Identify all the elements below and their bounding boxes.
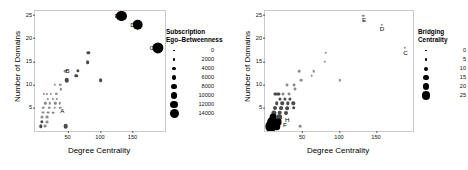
- x-tick: 50: [299, 131, 305, 140]
- data-point: [292, 83, 295, 86]
- legend-right: Bridging Centrality 0510152025: [418, 28, 468, 100]
- legend-value: 5: [434, 57, 468, 63]
- legend-dot-icon: [422, 91, 430, 99]
- legend-entry: 10: [418, 64, 468, 73]
- legend-dot-icon: [170, 101, 178, 109]
- legend-title-left: Subscription Ego–Betweenness: [166, 28, 222, 44]
- legend-title-line1: Subscription: [166, 28, 222, 36]
- data-point: [41, 111, 44, 114]
- legend-dot-icon: [171, 84, 177, 90]
- data-point: [54, 102, 56, 104]
- data-point: [298, 70, 301, 73]
- data-point: [99, 78, 103, 82]
- legend-value: 10000: [182, 93, 216, 99]
- point-label-d: D: [130, 22, 134, 28]
- legend-value: 25: [434, 93, 468, 99]
- data-point: [310, 74, 313, 77]
- legend-size-marker: [166, 50, 182, 52]
- data-point: [60, 88, 62, 90]
- data-point: [49, 93, 51, 95]
- legend-size-marker: [166, 58, 182, 60]
- y-tick: 25: [256, 13, 265, 19]
- data-point: [300, 79, 303, 82]
- legend-entry: 12000: [166, 100, 222, 109]
- legend-dot-icon: [425, 58, 428, 61]
- legend-dot-icon: [172, 67, 175, 70]
- data-point: [63, 124, 68, 129]
- data-point: [283, 97, 286, 100]
- legend-entry: 10000: [166, 91, 222, 100]
- legend-value: 6000: [182, 75, 216, 81]
- legend-size-marker: [166, 101, 182, 109]
- x-axis-label-right: Degree Centrality: [264, 146, 412, 155]
- y-tick: 20: [26, 36, 35, 42]
- data-point: [52, 111, 55, 114]
- data-point: [286, 83, 289, 86]
- data-point: [76, 69, 79, 72]
- data-point: [48, 107, 51, 110]
- data-point: [324, 61, 326, 63]
- legend-size-marker: [166, 109, 182, 118]
- data-point: [59, 84, 61, 86]
- legend-dot-icon: [424, 67, 428, 71]
- x-tick: 50: [64, 131, 70, 140]
- point-label-a: A: [60, 108, 64, 114]
- data-point: [46, 93, 48, 95]
- point-label-d: D: [380, 26, 384, 32]
- legend-value: 14000: [182, 111, 216, 117]
- legend-title-right: Bridging Centrality: [418, 28, 468, 44]
- point-label-b: B: [65, 68, 69, 74]
- legend-title-line2: Ego–Betweenness: [166, 36, 222, 44]
- data-point: [55, 93, 57, 95]
- legend-dot-icon: [172, 75, 177, 80]
- data-point: [74, 74, 78, 78]
- legend-size-marker: [166, 84, 182, 90]
- data-point: [289, 97, 292, 100]
- data-point: [273, 123, 281, 131]
- data-point: [284, 111, 288, 115]
- legend-value: 0: [434, 48, 468, 54]
- legend-size-marker: [166, 75, 182, 80]
- data-point: [40, 120, 43, 123]
- data-point: [286, 102, 289, 105]
- legend-size-marker: [418, 75, 434, 80]
- y-tick: 10: [256, 82, 265, 88]
- legend-dot-icon: [170, 109, 179, 118]
- legend-size-marker: [418, 67, 434, 71]
- data-point: [42, 107, 45, 110]
- y-tick: 20: [256, 36, 265, 42]
- data-point: [44, 125, 47, 128]
- y-tick: 5: [259, 105, 265, 111]
- data-point: [292, 106, 296, 110]
- data-point: [291, 102, 294, 105]
- x-axis-label-left: Degree Centrality: [34, 146, 164, 155]
- legend-size-marker: [418, 50, 434, 52]
- y-tick: 25: [26, 13, 35, 19]
- legend-dot-icon: [423, 75, 428, 80]
- y-tick: 15: [256, 59, 265, 65]
- data-point: [285, 106, 289, 110]
- data-point: [278, 97, 281, 100]
- data-point: [47, 111, 50, 114]
- data-point: [324, 51, 326, 53]
- data-point: [293, 88, 296, 91]
- legend-entry: 2000: [166, 55, 222, 64]
- x-tick: 100: [95, 131, 104, 140]
- data-point: [51, 98, 53, 100]
- legend-left: Subscription Ego–Betweenness 02000400060…: [166, 28, 222, 118]
- legend-size-marker: [166, 67, 182, 70]
- y-axis-label-right: Number of Domains: [243, 19, 252, 115]
- data-point: [43, 93, 45, 95]
- y-tick: 10: [26, 82, 35, 88]
- data-point: [39, 125, 42, 128]
- legend-dot-icon: [423, 83, 430, 90]
- data-point: [53, 84, 55, 86]
- legend-title-line2: Centrality: [418, 36, 468, 44]
- data-point: [298, 125, 301, 128]
- data-point: [86, 60, 90, 64]
- data-point: [49, 102, 51, 104]
- data-point: [288, 93, 291, 96]
- legend-value: 2000: [182, 57, 216, 63]
- legend-size-marker: [418, 83, 434, 90]
- legend-entry: 8000: [166, 82, 222, 91]
